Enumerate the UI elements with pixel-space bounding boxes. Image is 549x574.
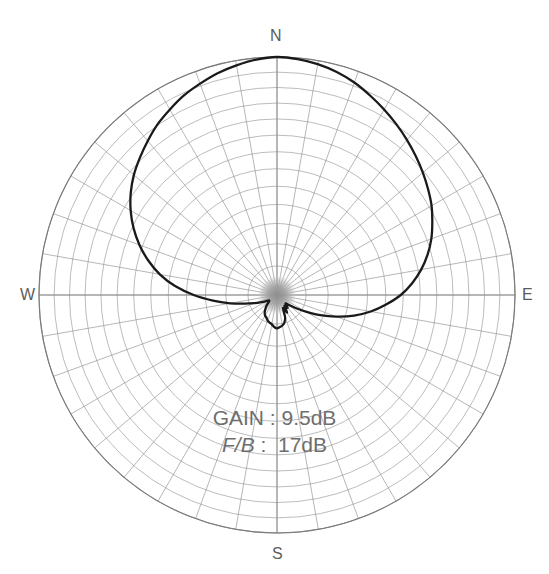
annotation-fb-value: : 17dB bbox=[255, 433, 327, 456]
center-origin-blob bbox=[257, 275, 297, 315]
cardinal-label-south: S bbox=[272, 546, 283, 562]
annotation-front-to-back: F/B : 17dB bbox=[0, 431, 549, 458]
polar-radiation-chart bbox=[0, 0, 549, 574]
cardinal-label-east: E bbox=[522, 287, 533, 303]
cardinal-label-west: W bbox=[20, 287, 36, 303]
annotation-gain: GAIN : 9.5dB bbox=[0, 404, 549, 431]
chart-annotations: GAIN : 9.5dB F/B : 17dB bbox=[0, 404, 549, 458]
annotation-fb-label: F/B bbox=[222, 433, 255, 456]
cardinal-label-north: N bbox=[270, 28, 282, 44]
